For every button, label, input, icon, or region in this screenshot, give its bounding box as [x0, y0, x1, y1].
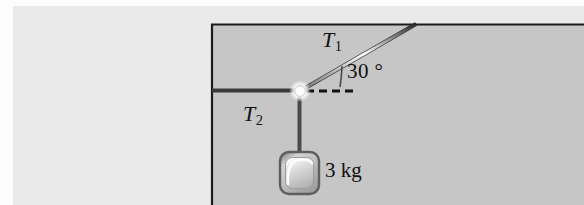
label-tension-t2-subscript: 2 — [256, 112, 263, 128]
label-mass-3kg: 3 kg — [325, 160, 362, 181]
label-tension-t1: T1 — [322, 29, 342, 54]
label-angle-30-degrees: 30 ° — [347, 61, 383, 82]
knot — [295, 86, 306, 97]
label-tension-t2: T2 — [243, 103, 263, 128]
physics-diagram-figure: T1 T2 30 ° 3 kg — [0, 0, 584, 205]
diagram-vector-layer — [0, 0, 584, 205]
label-tension-t1-base: T — [322, 27, 334, 52]
label-tension-t1-subscript: 1 — [335, 38, 342, 54]
label-tension-t2-base: T — [243, 101, 255, 126]
